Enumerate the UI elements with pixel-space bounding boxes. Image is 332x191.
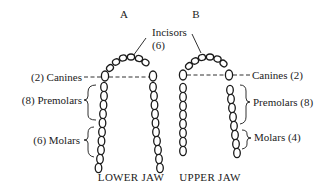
- lower-jaw-caption: LOWER JAW: [98, 171, 165, 183]
- canines-label-a: (2) Canines: [31, 71, 82, 84]
- incisors-label: Incisors: [152, 26, 187, 38]
- premolars-brace-b: [240, 85, 250, 124]
- premolars-brace-a: [84, 85, 96, 120]
- upper-jaw-caption: UPPER JAW: [179, 171, 241, 183]
- upper-jaw-teeth: [179, 54, 240, 158]
- canines-label-b: Canines (2): [252, 69, 303, 82]
- panel-a-letter: A: [120, 8, 128, 20]
- molars-brace-a: [84, 127, 94, 157]
- panel-b-letter: B: [192, 8, 199, 20]
- incisors-pointer-a: [133, 38, 146, 56]
- incisors-pointer-b: [192, 34, 201, 53]
- premolars-label-a: (8) Premolars: [22, 94, 82, 107]
- molars-brace-b: [242, 130, 251, 149]
- lower-jaw-teeth: [95, 54, 163, 173]
- premolars-label-b: Premolars (8): [253, 96, 314, 109]
- molars-label-a: (6) Molars: [33, 134, 80, 147]
- incisors-count-label: (6): [152, 39, 165, 52]
- dentition-diagram: A B Incisors (6): [0, 0, 332, 191]
- molars-label-b: Molars (4): [254, 131, 301, 144]
